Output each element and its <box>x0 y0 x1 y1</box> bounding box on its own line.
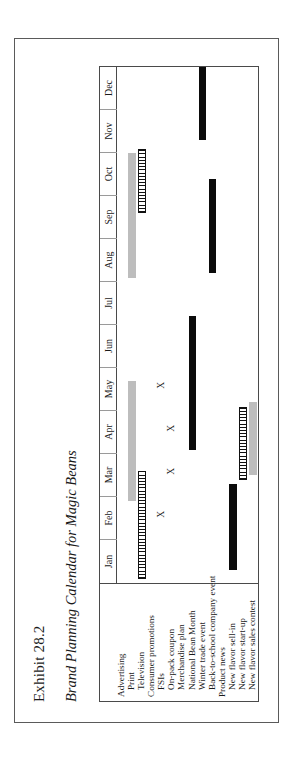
gantt-bar <box>128 381 136 501</box>
gantt-bar <box>239 407 247 480</box>
month-header-jul: Jul <box>100 282 117 325</box>
event-x-marker: X <box>157 380 167 390</box>
exhibit-title: Brand Planning Calendar for Magic Beans <box>63 450 80 702</box>
month-header-mar: Mar <box>100 454 117 497</box>
month-header-row: JanFebMarAprMayJunJulAugSepOctNovDec <box>100 67 117 583</box>
event-x-marker: X <box>167 423 177 433</box>
gantt-bar <box>138 149 146 214</box>
month-header-oct: Oct <box>100 153 117 196</box>
planning-calendar-chart: AdvertisingPrintTelevisionConsumer promo… <box>99 66 259 702</box>
gantt-bar <box>189 316 197 449</box>
row-label-national-bean-month: National Bean Month <box>188 610 198 690</box>
row-label-new-flavor-sales-contest: New flavor sales contest <box>248 600 258 690</box>
month-header-dec: Dec <box>100 67 117 110</box>
month-header-may: May <box>100 368 117 411</box>
row-label-merchandise-plan: Merchandise plan <box>177 624 187 690</box>
rotated-exhibit-stage: Exhibit 28.2 Brand Planning Calendar for… <box>15 39 278 722</box>
gantt-bar <box>249 402 257 475</box>
month-header-nov: Nov <box>100 110 117 153</box>
chart-plot-area: XXXX <box>117 67 258 583</box>
month-header-jun: Jun <box>100 325 117 368</box>
month-header-aug: Aug <box>100 239 117 282</box>
month-header-apr: Apr <box>100 411 117 454</box>
month-header-feb: Feb <box>100 497 117 540</box>
row-label-new-flavor-sell-in: New flavor sell-in <box>228 623 238 690</box>
gantt-bar <box>138 471 146 579</box>
gantt-bar <box>209 179 217 274</box>
row-label-back-to-school-company-event: Back-to-school company event <box>208 576 218 690</box>
row-label-product-news: Product news <box>218 647 228 697</box>
month-header-jan: Jan <box>100 540 117 583</box>
event-x-marker: X <box>157 509 167 519</box>
event-x-marker: X <box>167 466 177 476</box>
row-label-column: AdvertisingPrintTelevisionConsumer promo… <box>100 583 258 701</box>
gantt-bar <box>128 153 136 278</box>
gantt-bar <box>229 484 237 570</box>
gantt-bar <box>199 67 207 140</box>
exhibit-number: Exhibit 28.2 <box>31 625 48 702</box>
exhibit-page-frame: Exhibit 28.2 Brand Planning Calendar for… <box>14 38 279 723</box>
row-label-winter-trade-event: Winter trade event <box>198 622 208 690</box>
month-header-sep: Sep <box>100 196 117 239</box>
